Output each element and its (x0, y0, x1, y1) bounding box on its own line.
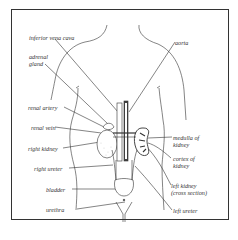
label-medulla-line2: kidney (173, 141, 189, 148)
label-medulla-line1: medulla of (173, 134, 199, 141)
label-adrenal-gland-line2: gland (29, 60, 43, 67)
label-bladder: bladder (46, 186, 65, 193)
label-cortex-line2: kidney (173, 162, 189, 169)
label-left-ureter: left ureter (173, 207, 197, 214)
label-urethra: urethra (46, 206, 64, 213)
label-right-ureter: right ureter (34, 165, 62, 172)
label-right-kidney: right kidney (28, 145, 58, 152)
label-inferior-vena-cava: inferior vena cava (29, 34, 74, 41)
label-aorta: aorta (175, 39, 188, 46)
label-renal-artery: renal artery (28, 104, 58, 111)
adrenal-gland-shape (103, 123, 114, 129)
label-cortex-line1: cortex of (173, 155, 195, 162)
label-adrenal-gland-line1: adrenal (29, 53, 48, 60)
label-renal-vein: renal vein (31, 124, 56, 131)
label-left-kidney-line1: left kidney (171, 182, 197, 189)
label-left-kidney-line2: (cross section) (171, 189, 207, 196)
body-outline-left-waist (70, 88, 78, 210)
